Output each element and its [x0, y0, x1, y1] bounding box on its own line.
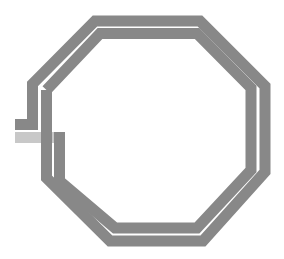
inductor-diagram: octagonal-spiral-inductor: [0, 0, 284, 259]
outer-turn-trace: [15, 21, 265, 241]
inner-turn-trace: [47, 34, 252, 229]
spiral-inductor-graphic: [0, 0, 284, 259]
